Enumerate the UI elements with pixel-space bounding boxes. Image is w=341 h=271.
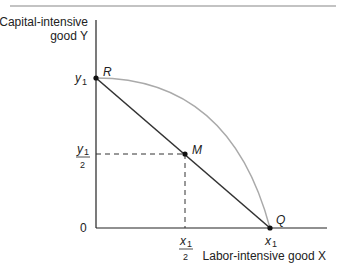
x-tick-full: x: [264, 234, 272, 248]
x-tick-half-den: 2: [183, 252, 188, 262]
y-axis-title-line1: Capital-intensive: [0, 15, 88, 29]
point-q: [267, 225, 272, 230]
y-axis-title-line2: good Y: [50, 29, 88, 43]
y-tick-top-sub: 1: [82, 77, 87, 87]
x-tick-full-sub: 1: [272, 239, 277, 249]
y-tick-half-den: 2: [80, 160, 85, 170]
label-m: M: [192, 143, 202, 157]
label-r: R: [103, 65, 112, 79]
point-r: [93, 75, 98, 80]
y-tick-half-num: y: [76, 142, 84, 156]
point-m: [182, 151, 187, 156]
x-tick-half-sub: 1: [187, 239, 192, 249]
label-q: Q: [276, 213, 285, 227]
x-tick-half-num: x: [179, 234, 187, 248]
ppf-diagram: R M Q Capital-intensive good Y y 1 y 1 2…: [0, 0, 341, 271]
y-tick-top: y: [74, 71, 82, 85]
x-axis-title: Labor-intensive good X: [203, 249, 326, 263]
origin-label: 0: [80, 221, 87, 235]
y-tick-half-sub: 1: [84, 147, 89, 157]
